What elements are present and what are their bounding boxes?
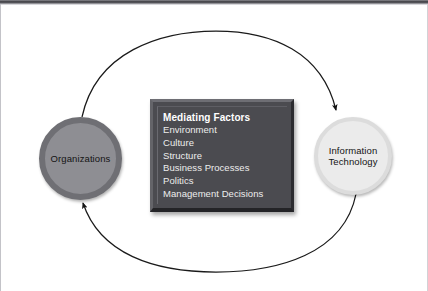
node-organizations[interactable]: Organizations (39, 117, 122, 200)
node-it-label-line2: Technology (328, 156, 377, 167)
factor-item: Management Decisions (163, 188, 287, 201)
mediating-factors-title: Mediating Factors (163, 111, 287, 124)
factor-item: Culture (163, 137, 287, 150)
node-information-technology[interactable]: Information Technology (314, 117, 392, 195)
mediating-factors-inner: Mediating Factors Environment Culture St… (157, 106, 287, 204)
node-it-label-line1: Information (329, 145, 378, 156)
diagram-canvas: Organizations Information Technology Med… (0, 0, 428, 291)
mediating-factors-panel: Mediating Factors Environment Culture St… (150, 99, 294, 212)
factor-item: Politics (163, 175, 287, 188)
factor-item: Business Processes (163, 162, 287, 175)
node-information-technology-label: Information Technology (328, 145, 377, 168)
node-organizations-label: Organizations (51, 153, 111, 164)
factor-item: Environment (163, 124, 287, 137)
factor-item: Structure (163, 150, 287, 163)
